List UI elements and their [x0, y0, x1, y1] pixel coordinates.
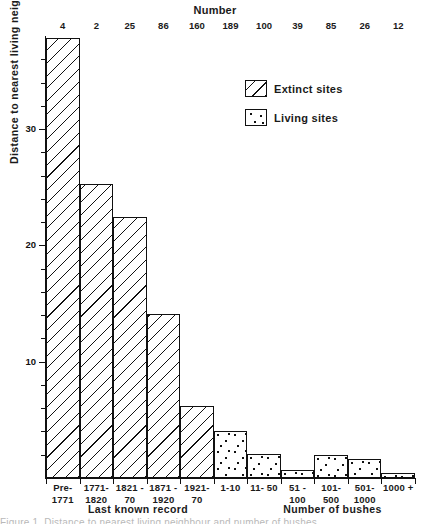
top-axis-values: 42258616018910039852612 — [46, 20, 415, 34]
bar-extinct — [46, 38, 80, 478]
legend-item-extinct-sites: Extinct sites — [245, 80, 343, 97]
bar-living — [247, 454, 281, 478]
x-axis-title-right: Number of bushes — [245, 503, 420, 515]
figure-caption: Figure 1. Distance to nearest living nei… — [0, 517, 430, 524]
y-axis-tick-label: 10 — [8, 356, 36, 367]
bar-living — [348, 459, 382, 478]
y-axis-major-tick — [39, 245, 46, 246]
top-axis-title: Number — [0, 4, 430, 16]
legend-item-living-sites: Living sites — [245, 109, 343, 126]
legend-swatch-hatched-icon — [245, 80, 267, 97]
legend-label-extinct-sites: Extinct sites — [274, 83, 343, 95]
y-axis-major-tick — [39, 129, 46, 130]
bar-extinct — [180, 406, 214, 478]
chart-plot-area: 102030 — [46, 36, 415, 478]
bar-living — [281, 470, 315, 478]
y-axis-tick-label: 20 — [8, 239, 36, 250]
bar-living — [381, 473, 415, 478]
x-axis-title-left: Last known record — [46, 503, 230, 515]
bar-extinct — [80, 184, 114, 478]
bar-extinct — [113, 217, 147, 478]
x-axis-tick-label: 1000 + — [368, 482, 428, 494]
top-axis-value: 12 — [378, 20, 418, 31]
bar-living — [314, 455, 348, 478]
legend-swatch-dotted-icon — [245, 109, 267, 126]
y-axis-major-tick — [39, 362, 46, 363]
legend-label-living-sites: Living sites — [274, 112, 338, 124]
chart-legend: Extinct sites Living sites — [245, 80, 343, 138]
y-axis-title: Distance to nearest living neighbour (km… — [8, 0, 20, 164]
bar-living — [214, 431, 248, 478]
y-axis-title-wrap: Distance to nearest living neighbour (km… — [16, 36, 17, 478]
bar-extinct — [147, 314, 181, 478]
